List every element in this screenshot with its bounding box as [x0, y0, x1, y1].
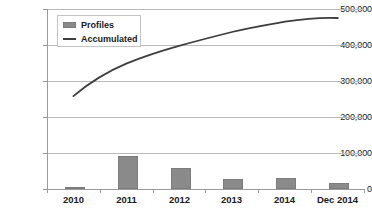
x-tick-mark: [364, 189, 365, 193]
accumulated-line-series[interactable]: [0, 0, 372, 212]
x-tick-mark: [258, 189, 259, 193]
x-tick-label-2011: 2011: [100, 194, 153, 205]
y-axis-line: [47, 9, 48, 190]
x-axis-line: [47, 189, 365, 190]
x-tick-mark: [205, 189, 206, 193]
legend-label-profiles: Profiles: [81, 20, 114, 30]
legend-bar-swatch-icon: [63, 22, 76, 28]
x-tick-mark: [153, 189, 154, 193]
x-tick-mark: [311, 189, 312, 193]
x-tick-label-2013: 2013: [205, 194, 258, 205]
legend-item-profiles[interactable]: Profiles: [63, 19, 114, 31]
x-tick-label-2014: 2014: [258, 194, 311, 205]
legend: Profiles Accumulated: [57, 15, 141, 47]
x-tick-label-dec-2014: Dec 2014: [311, 194, 364, 205]
x-tick-mark: [100, 189, 101, 193]
x-tick-label-2010: 2010: [47, 194, 100, 205]
chart-container: 500,000 400,000 300,000 200,000 100,000 …: [0, 0, 372, 212]
x-tick-label-2012: 2012: [153, 194, 206, 205]
legend-item-accumulated[interactable]: Accumulated: [63, 33, 138, 45]
legend-label-accumulated: Accumulated: [81, 34, 138, 44]
x-tick-mark: [47, 189, 48, 193]
legend-line-swatch-icon: [63, 38, 76, 40]
